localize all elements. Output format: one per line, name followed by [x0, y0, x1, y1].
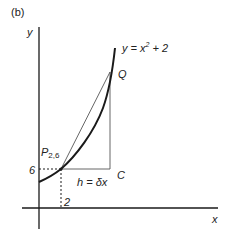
- point-p-subscript: 2,6: [48, 151, 59, 160]
- panel-label: (b): [11, 7, 24, 18]
- equation-lhs: y = x: [122, 42, 146, 54]
- chord-pq: [61, 72, 110, 169]
- equation-rhs: + 2: [149, 42, 168, 54]
- tangent-secant-diagram: (b) y x y = x2 + 2 Q C P2,6 6 2 h = δx: [0, 0, 229, 238]
- point-p-label: P2,6: [41, 147, 59, 160]
- point-q-label: Q: [118, 69, 127, 80]
- y-axis-label: y: [27, 27, 33, 38]
- point-p-marker: [59, 167, 62, 170]
- point-c-label: C: [117, 170, 125, 181]
- increment-label: h = δx: [77, 177, 107, 188]
- parabola-curve: [39, 48, 115, 182]
- diagram-canvas: [0, 0, 229, 238]
- y-tick-label: 6: [29, 165, 35, 176]
- curve-equation-label: y = x2 + 2: [122, 41, 168, 54]
- x-tick-label: 2: [64, 197, 70, 208]
- x-axis-label: x: [212, 214, 218, 225]
